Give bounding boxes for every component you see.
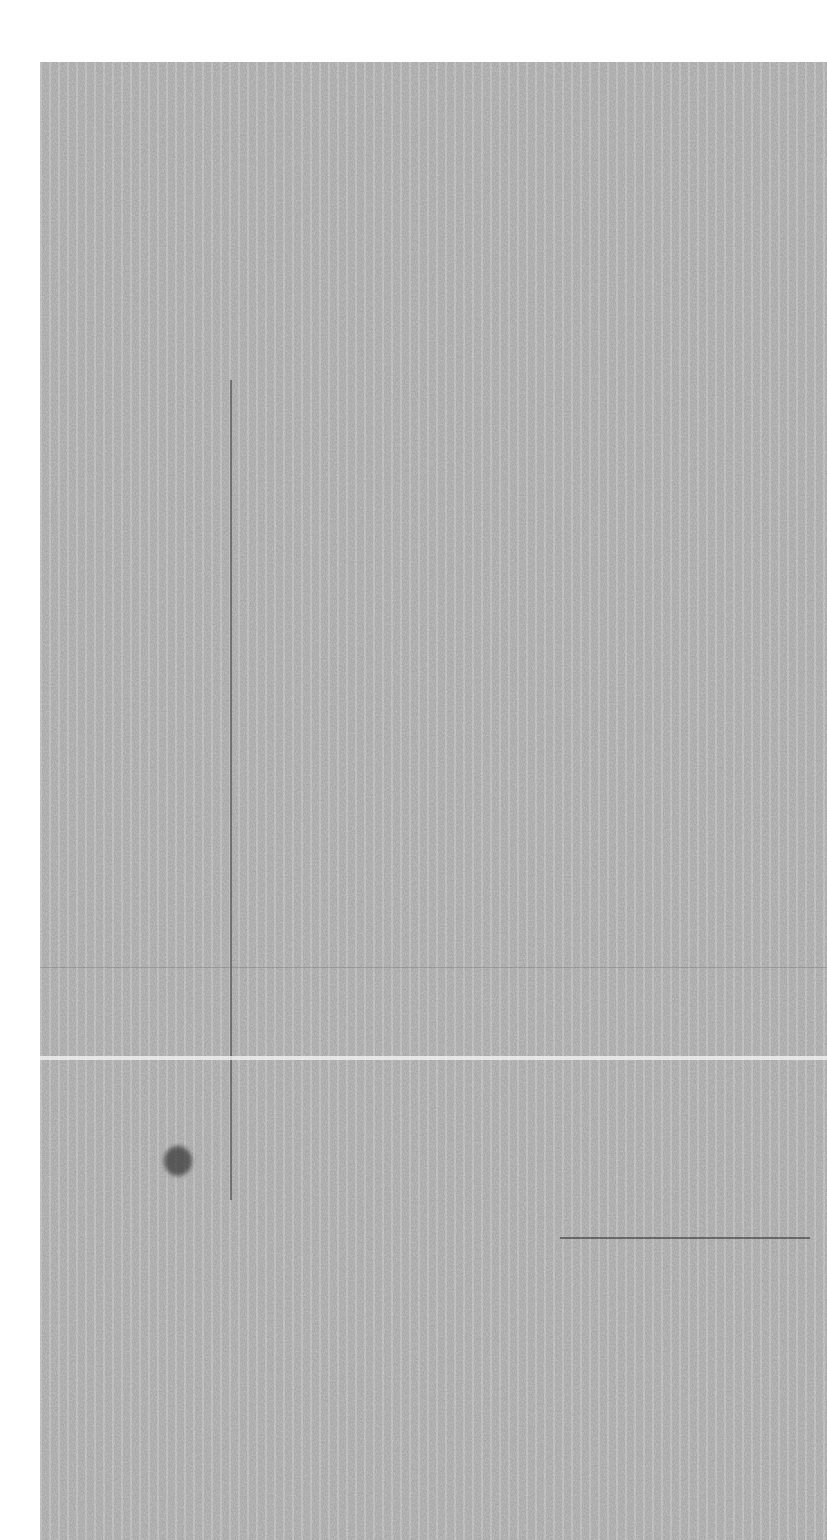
horizontal-dark-line: [40, 967, 827, 968]
dark-blob: [164, 1146, 192, 1176]
horizontal-light-band: [40, 1056, 827, 1060]
noise-texture: [40, 62, 827, 1540]
vertical-dark-line: [230, 380, 232, 1200]
texture-canvas: [0, 0, 827, 1540]
horizontal-dark-line-right: [560, 1237, 810, 1239]
